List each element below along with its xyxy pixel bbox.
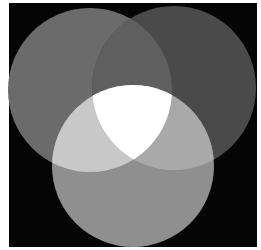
venn-diagram [0, 0, 261, 250]
